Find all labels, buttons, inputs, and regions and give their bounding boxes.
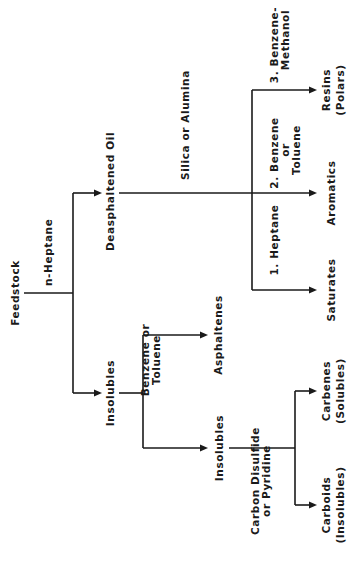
label-benzene-or-toluene-2-line3: Toluene [290,125,302,175]
arrowhead [94,190,102,197]
node-aromatics: Aromatics [325,160,337,225]
node-insolubles-2: Insolubles [213,415,225,481]
node-resins: Resins (Polars) [320,64,346,115]
node-feedstock: Feedstock [9,260,21,326]
arrowhead [200,332,208,339]
label-cs2-or-pyridine: Carbon Disulfide or Pyridine [249,427,272,535]
arrowhead [309,287,317,294]
arrowhead [309,388,317,395]
label-benzene-or-toluene-1-line2: Toluene [150,335,162,385]
node-carbenes-line1: Carbenes [320,361,332,421]
node-carbenes: Carbenes (Solubles) [320,358,346,424]
label-n-heptane: n-Heptane [42,219,54,286]
label-heptane-1: 1. Heptane [268,204,280,275]
node-insolubles-1: Insolubles [104,360,116,426]
node-saturates: Saturates [325,258,337,321]
label-cs2-or-pyridine-line2: or Pyridine [260,445,272,517]
arrowhead [309,87,317,94]
arrowhead [309,190,317,197]
node-resins-line1: Resins [320,69,332,111]
arrowhead [94,390,102,397]
node-asphaltenes: Asphaltenes [212,295,224,375]
node-carboids: Carboids (Insolubles) [320,466,346,543]
node-carboids-line1: Carboids [320,477,332,534]
arrowhead [200,445,208,452]
label-benzene-methanol-3-line2: Methanol [279,10,291,70]
fractionation-diagram: Feedstock Deasphaltened Oil Insolubles A… [0,0,362,567]
label-benzene-methanol-3: 3. Benzene- Methanol [268,7,291,83]
node-carboids-line2: (Insolubles) [334,466,346,543]
edge-labels: n-Heptane Silica or Alumina Benzene or T… [42,7,302,535]
node-carbenes-line2: (Solubles) [334,358,346,424]
arrowhead [309,502,317,509]
label-silica-or-alumina: Silica or Alumina [179,70,191,180]
label-benzene-or-toluene-2: 2. Benzene or Toluene [268,117,302,188]
node-deasphaltened-oil: Deasphaltened Oil [104,132,116,251]
node-resins-line2: (Polars) [334,64,346,115]
